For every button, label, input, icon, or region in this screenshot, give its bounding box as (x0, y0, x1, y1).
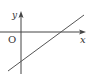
coordinate-diagram: y O x (0, 0, 96, 78)
function-line (8, 15, 84, 71)
origin-label: O (8, 34, 16, 45)
y-axis (19, 11, 24, 74)
y-axis-label: y (11, 10, 18, 20)
x-axis-label: x (80, 34, 86, 45)
